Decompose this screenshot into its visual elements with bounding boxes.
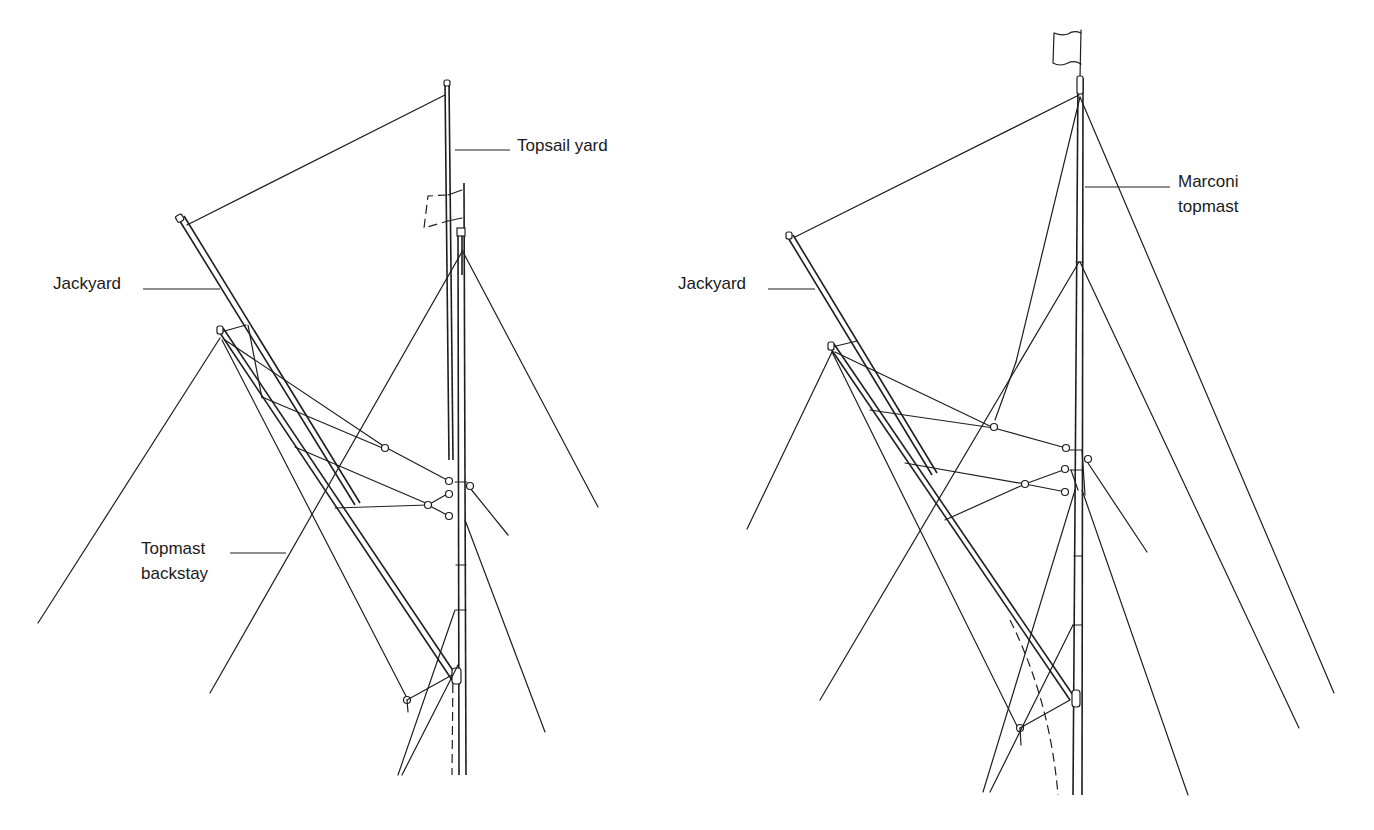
topsail-head-right: [795, 95, 1079, 237]
svg-text:Jackyard: Jackyard: [678, 274, 746, 293]
rigging-diagram-canvas: Topsail yard Jackyard Topmast backstay: [0, 0, 1374, 830]
gaff-jaw-right: [1072, 690, 1080, 707]
topmast-forestay: [463, 252, 598, 507]
mast-dashed-line: [452, 670, 453, 775]
label-jackyard-right: Jackyard: [678, 274, 815, 293]
blocks-left: [382, 445, 474, 704]
svg-text:Topsail yard: Topsail yard: [517, 136, 608, 155]
forward-stay-lower: [465, 520, 545, 732]
topmast: [457, 183, 466, 775]
svg-text:topmast: topmast: [1178, 197, 1239, 216]
topsail-head: [187, 95, 445, 225]
right-rig-diagram: Marconi topmast Jackyard: [678, 30, 1334, 795]
svg-text:backstay: backstay: [141, 564, 209, 583]
gaff-jaw: [452, 668, 461, 684]
masthead-flag: [1053, 30, 1081, 78]
svg-text:Marconi: Marconi: [1178, 172, 1238, 191]
forestay-right: [1080, 262, 1299, 728]
left-rig-diagram: Topsail yard Jackyard Topmast backstay: [38, 80, 608, 775]
svg-text:Jackyard: Jackyard: [53, 274, 121, 293]
gaff-spar: [217, 325, 458, 680]
jackyard-spar: [175, 213, 360, 505]
svg-text:Topmast: Topmast: [141, 539, 206, 558]
topmast-backstay-right: [1016, 97, 1080, 362]
label-marconi-topmast: Marconi topmast: [1085, 172, 1239, 216]
label-topsail-yard: Topsail yard: [455, 136, 608, 155]
running-backstay-right: [820, 262, 1079, 700]
marconi-topmast: [1073, 76, 1083, 795]
jackyard-spar-right: [786, 232, 937, 475]
lower-stay-right: [1082, 490, 1188, 795]
gaff-spar-right: [828, 341, 1075, 700]
dashed-flag: [424, 195, 448, 228]
topmast-backstay-line: [210, 250, 463, 693]
gaff-vang-right: [832, 352, 1018, 728]
outer-backstay-right: [747, 352, 832, 529]
label-jackyard-left: Jackyard: [53, 274, 220, 293]
sheet-line: [470, 488, 508, 535]
label-topmast-backstay: Topmast backstay: [141, 539, 286, 583]
sheet-line-right: [1086, 460, 1147, 552]
